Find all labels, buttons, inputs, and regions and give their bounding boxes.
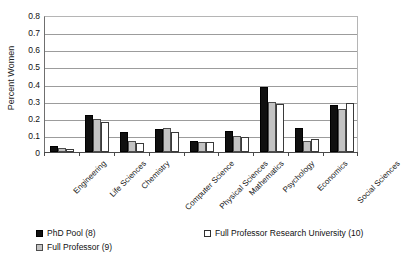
legend-label-full-professor: Full Professor (9) — [47, 242, 112, 252]
legend-label-phd-pool: PhD Pool (8) — [47, 228, 96, 238]
x-axis-tick — [149, 152, 150, 156]
bar — [85, 115, 93, 152]
bar — [268, 102, 276, 152]
y-axis-tick-label: 0.8 — [28, 11, 40, 21]
x-axis-label: Engineering — [72, 159, 109, 196]
y-axis-tick-label: 0.5 — [28, 62, 40, 72]
bar — [155, 129, 163, 152]
y-axis-tick-label: 0.1 — [28, 131, 40, 141]
y-axis-tick-label: 0.2 — [28, 114, 40, 124]
x-axis-label: Social Sciences — [355, 159, 401, 205]
bar — [190, 141, 198, 152]
bar — [163, 128, 171, 152]
bar — [303, 141, 311, 152]
bars-layer — [45, 17, 357, 152]
bar-group — [293, 16, 321, 152]
bar — [241, 137, 249, 152]
bar — [171, 132, 179, 152]
bar — [93, 119, 101, 152]
y-axis-tick-label: 0 — [35, 148, 40, 158]
x-axis-tick — [218, 152, 219, 156]
bar — [225, 131, 233, 152]
bar — [120, 132, 128, 152]
bar-group — [188, 16, 216, 152]
bar-group — [328, 16, 356, 152]
bar — [136, 143, 144, 152]
y-axis-tick-labels: 0.80.70.60.50.40.30.20.10 — [18, 11, 42, 157]
bar — [233, 136, 241, 152]
legend-item-full-professor-research-university: Full Professor Research University (10) — [204, 228, 363, 238]
x-axis-tick — [114, 152, 115, 156]
bar — [311, 139, 319, 152]
x-axis-tick — [357, 152, 358, 156]
bar — [198, 142, 206, 152]
x-axis-category-labels: EngineeringLife SciencesChemistryCompute… — [44, 157, 358, 223]
bar — [101, 122, 109, 152]
bar — [206, 142, 214, 152]
bar-group — [258, 16, 286, 152]
x-axis-label: Life Sciences — [108, 159, 148, 199]
legend-item-phd-pool: PhD Pool (8) — [36, 228, 96, 238]
legend-label-full-professor-research-university: Full Professor Research University (10) — [215, 228, 363, 238]
x-axis-tick — [288, 152, 289, 156]
y-axis-tick-label: 0.7 — [28, 28, 40, 38]
bar — [260, 87, 268, 152]
x-axis-tick — [323, 152, 324, 156]
bar — [346, 103, 354, 152]
bar — [330, 105, 338, 152]
legend-swatch-full-professor — [36, 244, 43, 251]
bar-group — [83, 16, 111, 152]
bar-group — [153, 16, 181, 152]
bar-group — [48, 16, 76, 152]
bar — [295, 128, 303, 152]
bar — [276, 104, 284, 152]
y-axis-tick-label: 0.3 — [28, 97, 40, 107]
y-axis-tick-label: 0.6 — [28, 45, 40, 55]
y-axis-title-text: Percent Women — [6, 45, 16, 109]
chart-legend: PhD Pool (8) Full Professor (9) Full Pro… — [36, 228, 356, 262]
x-axis-tick — [44, 152, 45, 156]
bar-group — [223, 16, 251, 152]
legend-swatch-phd-pool — [36, 230, 43, 237]
x-axis-label: Psychology — [281, 159, 316, 194]
bar — [338, 109, 346, 152]
legend-swatch-full-professor-research-university — [204, 230, 211, 237]
plot-area — [44, 16, 358, 153]
bar-group — [118, 16, 146, 152]
legend-item-full-professor: Full Professor (9) — [36, 242, 112, 252]
x-axis-tick — [184, 152, 185, 156]
x-axis-tick — [253, 152, 254, 156]
y-axis-tick-label: 0.4 — [28, 80, 40, 90]
bar — [128, 141, 136, 152]
x-axis-tick — [79, 152, 80, 156]
x-axis-label: Economics — [315, 159, 349, 193]
